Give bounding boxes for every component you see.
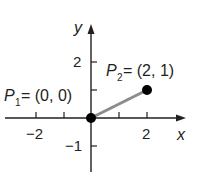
y-tick-label-neg1: −1 xyxy=(65,137,82,154)
x-tick-label-2: 2 xyxy=(142,125,150,142)
y-axis-label: y xyxy=(73,19,83,36)
p1-label: P 1 = (0, 0) xyxy=(4,87,72,108)
y-tick-label-2: 2 xyxy=(73,53,81,70)
point-p1 xyxy=(86,113,96,123)
x-axis-arrow-icon xyxy=(176,115,186,122)
svg-text:P: P xyxy=(106,62,117,79)
x-tick-label-neg2: −2 xyxy=(26,125,43,142)
svg-text:= (2, 1): = (2, 1) xyxy=(123,62,174,79)
p2-label: P 2 = (2, 1) xyxy=(106,62,174,83)
point-p2 xyxy=(142,85,152,95)
y-axis-arrow-icon xyxy=(88,24,95,34)
svg-text:P: P xyxy=(4,87,15,104)
x-axis-label: x xyxy=(176,126,186,143)
svg-text:= (0, 0): = (0, 0) xyxy=(21,87,72,104)
y-ticks xyxy=(91,62,97,146)
coordinate-plane: −2 2 2 −1 x y P 1 = (0, 0) P 2 = (2, 1) xyxy=(0,0,201,176)
